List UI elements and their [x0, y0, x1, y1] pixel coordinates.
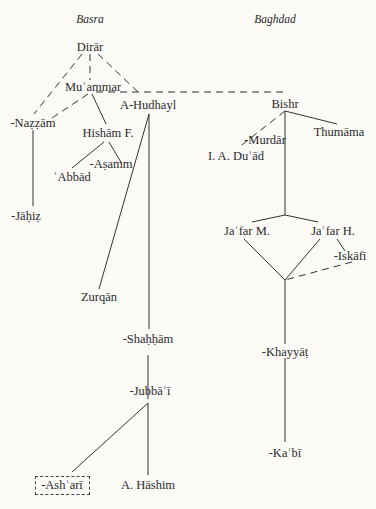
node-abbad: ʿAbbād — [53, 170, 91, 184]
node-hashim: A. Hāshim — [121, 478, 175, 492]
node-dirar: Dirār — [77, 40, 103, 54]
node-ashari: -Ashʿarī — [41, 478, 83, 492]
node-hisham: Hishām F. — [82, 126, 133, 140]
node-jubbai: -Jubbāʾī — [130, 384, 171, 398]
edge-jafar-m-khayyat — [244, 239, 285, 280]
node-shahham: -Shaḥḥām — [123, 332, 174, 346]
edge-hudhayl-zurqan — [99, 114, 149, 289]
region-label-baghdad: Baghdad — [254, 12, 296, 26]
edge-muammar-nazzam — [52, 94, 88, 118]
node-muammar: Muʿammar — [65, 80, 121, 94]
edge-lines — [0, 0, 376, 509]
node-thumama: Thumāma — [314, 125, 365, 139]
node-jahiz: -Jāḥiẓ — [11, 209, 41, 223]
edge-bishr-thumama — [285, 111, 337, 124]
mutazila-genealogy-diagram: Basra Baghdad Dirār Muʿammar A-Hudhayl -… — [0, 0, 376, 509]
edge-murdar-jafar-h — [285, 215, 318, 222]
node-kabi: -Kaʿbī — [269, 446, 302, 460]
node-jafar-m: Jaʿfar M. — [224, 224, 270, 238]
node-zurqan: Zurqān — [81, 290, 117, 304]
edge-muammar-hisham — [92, 94, 106, 124]
node-murdar: -Murdār — [244, 133, 286, 147]
edge-iskafi-khayyat — [285, 262, 352, 280]
node-duad: I. A. Duʾād — [208, 149, 264, 163]
node-bishr: Bishr — [271, 97, 298, 111]
node-khayyat: -Khayyāṭ — [262, 345, 309, 359]
region-label-basra: Basra — [76, 12, 103, 26]
edge-murdar-jafar-m — [252, 215, 285, 222]
node-nazzam: -Naẓẓām — [10, 116, 55, 130]
node-iskafi: -Iskāfī — [334, 249, 367, 263]
node-hudhayl: A-Hudhayl — [120, 98, 176, 112]
node-jafar-h: Jaʿfar H. — [311, 224, 355, 238]
node-asamm: -Aṣamm — [89, 157, 132, 171]
edge-jubbai-ashari — [72, 403, 148, 472]
edge-jafar-h-khayyat — [285, 239, 320, 280]
